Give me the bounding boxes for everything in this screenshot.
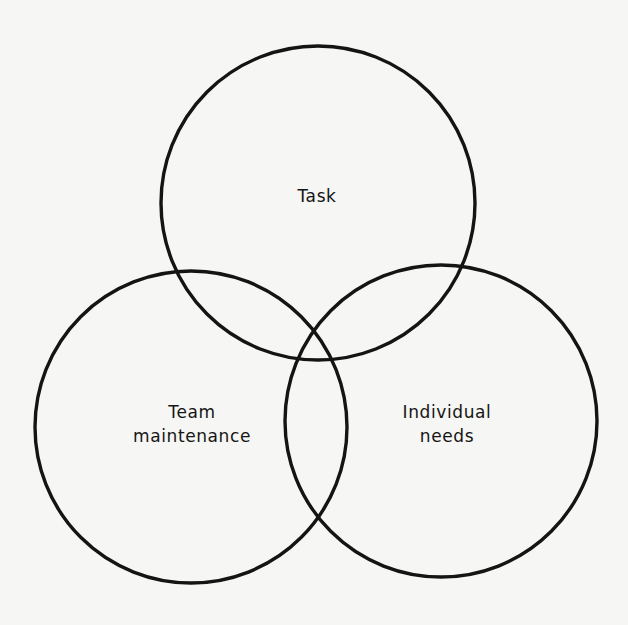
individual-label-line1: Individual <box>403 400 492 424</box>
task-label-line1: Task <box>297 184 336 208</box>
task-label: Task <box>297 184 336 208</box>
individual-label-line2: needs <box>403 424 492 448</box>
team-maintenance-label: Team maintenance <box>133 400 251 448</box>
team-label-line1: Team <box>133 400 251 424</box>
venn-diagram <box>0 0 628 625</box>
team-label-line2: maintenance <box>133 424 251 448</box>
individual-needs-label: Individual needs <box>403 400 492 448</box>
